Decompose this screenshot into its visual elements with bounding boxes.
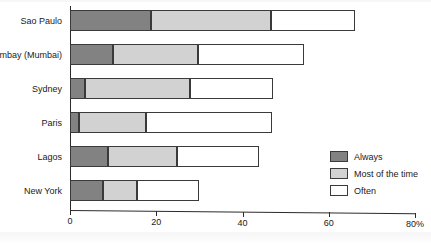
bar-segment-often xyxy=(271,10,355,31)
x-tick-label: 60 xyxy=(324,218,334,228)
legend-item[interactable]: Always xyxy=(330,150,383,163)
bar-segment-most xyxy=(79,112,147,133)
bar-row xyxy=(70,112,415,133)
category-label: Bombay (Mumbai) xyxy=(0,50,62,60)
x-tick-label: 0 xyxy=(67,216,72,226)
bar-segment-often xyxy=(198,44,305,65)
legend-swatch-often xyxy=(330,185,348,196)
bar-segment-always xyxy=(70,44,113,65)
scan-artifact-top xyxy=(0,0,431,2)
stacked-bar-chart: Sao PauloBombay (Mumbai)SydneyParisLagos… xyxy=(0,0,431,245)
legend-swatch-most xyxy=(330,168,348,179)
x-tick-label: 20 xyxy=(151,217,161,227)
bar-segment-always xyxy=(70,112,79,133)
x-tick xyxy=(243,212,244,217)
category-label: Sydney xyxy=(32,84,62,94)
category-axis-labels: Sao PauloBombay (Mumbai)SydneyParisLagos… xyxy=(0,8,66,210)
legend-swatch-always xyxy=(330,151,348,162)
chart-legend: AlwaysMost of the timeOften xyxy=(330,150,426,202)
bar-segment-always xyxy=(70,146,108,167)
category-label: New York xyxy=(24,186,62,196)
x-tick-label: 40 xyxy=(237,218,247,228)
legend-label: Always xyxy=(354,152,383,162)
x-tick xyxy=(415,213,416,218)
bar-row xyxy=(70,10,415,31)
legend-item[interactable]: Most of the time xyxy=(330,167,418,180)
category-label: Paris xyxy=(41,118,62,128)
legend-label: Often xyxy=(354,186,376,196)
bar-segment-often xyxy=(146,112,271,133)
bar-segment-most xyxy=(85,78,190,99)
bar-segment-most xyxy=(151,10,272,31)
bar-segment-always xyxy=(70,180,103,201)
bar-segment-often xyxy=(137,180,199,201)
category-label: Sao Paulo xyxy=(20,16,62,26)
category-label: Lagos xyxy=(37,152,62,162)
bar-segment-often xyxy=(190,78,273,99)
bar-segment-always xyxy=(70,10,151,31)
x-tick-label: 80% xyxy=(406,219,424,229)
bar-segment-most xyxy=(113,44,198,65)
bar-segment-most xyxy=(103,180,137,201)
scan-artifact-bottom xyxy=(0,232,431,245)
legend-item[interactable]: Often xyxy=(330,184,376,197)
x-tick xyxy=(70,210,71,215)
legend-label: Most of the time xyxy=(354,169,418,179)
bar-row xyxy=(70,78,415,99)
bar-segment-always xyxy=(70,78,85,99)
x-tick xyxy=(156,211,157,216)
bar-row xyxy=(70,44,415,65)
bar-segment-often xyxy=(177,146,259,167)
x-tick xyxy=(329,212,330,217)
bar-segment-most xyxy=(108,146,177,167)
